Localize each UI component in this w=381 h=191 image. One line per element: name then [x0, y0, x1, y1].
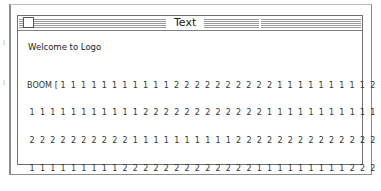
- text-line: BOOM [ 1 1 1 1 1 1 1 1 1 1 1 2 2 2 2 2 2…: [27, 81, 381, 90]
- text-line: 1 1 1 1 1 1 1 1 1 1 1 2 2 2 2 2 2 2 2 2 …: [27, 108, 381, 117]
- margin-marker: ⁝: [3, 80, 6, 87]
- margin-marker: ⁝: [3, 40, 6, 47]
- title-divider: [259, 18, 261, 28]
- title-bar[interactable]: Text: [18, 16, 362, 31]
- close-box[interactable]: [23, 17, 34, 28]
- greeting-text: Welcome to Logo: [28, 42, 101, 52]
- text-content[interactable]: BOOM [ 1 1 1 1 1 1 1 1 1 1 1 2 2 2 2 2 2…: [27, 62, 381, 191]
- text-line: 1 1 1 1 1 1 1 1 1 2 2 2 2 2 2 2 2 2 2 2 …: [27, 164, 381, 173]
- window-title: Text: [166, 16, 204, 30]
- text-line: 2 2 2 2 2 2 2 2 2 2 1 1 1 1 1 1 1 1 1 1 …: [27, 136, 381, 145]
- text-window: Text Welcome to Logo BOOM [ 1 1 1 1 1 1 …: [17, 15, 363, 165]
